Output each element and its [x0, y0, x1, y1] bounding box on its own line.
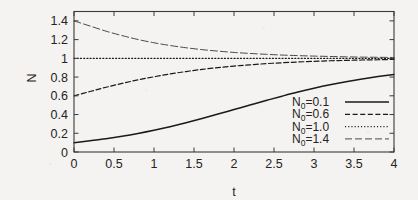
x-tick-label-6: 3 — [311, 157, 318, 171]
y-tick-label-1: 0.2 — [51, 127, 68, 141]
y-tick-label-4: 0.8 — [51, 71, 68, 85]
y-tick-label-0: 0 — [61, 146, 68, 160]
y-tick-label-6: 1.2 — [51, 33, 68, 47]
x-tick-label-2: 1 — [151, 157, 158, 171]
y-axis-title: N — [25, 73, 39, 82]
x-tick-label-3: 1.5 — [185, 157, 202, 171]
x-tick-label-4: 2 — [231, 157, 238, 171]
x-axis-title: t — [232, 185, 236, 199]
x-tick-label-1: 0.5 — [105, 157, 122, 171]
y-tick-label-3: 0.6 — [51, 89, 68, 103]
x-tick-label-5: 2.5 — [265, 157, 282, 171]
legend-label-3: N0=1.4 — [292, 132, 329, 148]
x-tick-label-0: 0 — [71, 157, 78, 171]
y-tick-label-2: 0.4 — [51, 108, 68, 122]
y-tick-label-7: 1.4 — [51, 14, 68, 28]
y-tick-label-5: 1 — [61, 52, 68, 66]
logistic-growth-chart: 00.511.522.533.5400.20.40.60.811.21.4 N0… — [0, 0, 418, 200]
x-tick-label-8: 4 — [391, 157, 398, 171]
x-tick-label-7: 3.5 — [345, 157, 362, 171]
